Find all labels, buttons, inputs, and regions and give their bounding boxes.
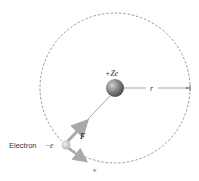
electron bbox=[62, 141, 71, 150]
electron-charge-label: −e bbox=[45, 141, 54, 150]
radius-label: r bbox=[150, 84, 154, 93]
velocity-arrow bbox=[68, 148, 86, 161]
bohr-diagram: r +Ze F v Electron −e bbox=[0, 0, 199, 181]
force-label: F bbox=[79, 132, 86, 141]
nucleus bbox=[106, 79, 124, 97]
nucleus-electron-line bbox=[88, 96, 110, 119]
velocity-label: v bbox=[93, 166, 97, 174]
nucleus-label: +Ze bbox=[105, 69, 119, 78]
electron-label: Electron bbox=[9, 141, 37, 150]
